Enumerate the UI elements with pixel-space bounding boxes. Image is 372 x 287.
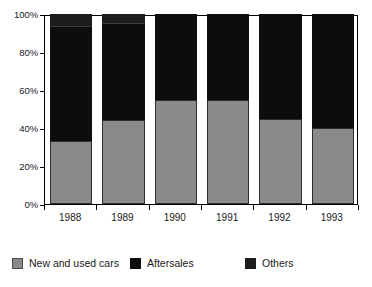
bar-group xyxy=(307,16,359,204)
bar-segment-new-and-used-cars[interactable] xyxy=(312,128,354,204)
bar-segment-others[interactable] xyxy=(102,14,144,24)
bar-segment-aftersales[interactable] xyxy=(207,14,249,100)
y-axis-tick-label: 0% xyxy=(4,200,38,210)
y-axis-tick-mark xyxy=(40,129,44,130)
y-axis-tick-label: 80% xyxy=(4,48,38,58)
bar-group xyxy=(150,16,202,204)
legend-item[interactable]: Aftersales xyxy=(130,255,194,271)
bar-segment-aftersales[interactable] xyxy=(312,14,354,128)
bar-group xyxy=(254,16,306,204)
y-axis-tick-mark xyxy=(40,15,44,16)
bar-stack[interactable] xyxy=(155,16,197,204)
bar-segment-new-and-used-cars[interactable] xyxy=(207,100,249,205)
y-axis-tick-label: 60% xyxy=(4,86,38,96)
bar-segment-new-and-used-cars[interactable] xyxy=(102,120,144,204)
x-axis-tick-mark xyxy=(44,205,45,210)
x-axis-tick-mark xyxy=(96,205,97,210)
bar-segment-new-and-used-cars[interactable] xyxy=(259,119,301,205)
legend-swatch-aftersales xyxy=(130,258,141,269)
x-axis-tick-mark xyxy=(306,205,307,210)
bar-stack[interactable] xyxy=(102,16,144,204)
x-axis-tick-label: 1988 xyxy=(44,212,96,224)
bar-segment-new-and-used-cars[interactable] xyxy=(50,141,92,204)
y-axis-tick-mark xyxy=(40,91,44,92)
bar-group xyxy=(97,16,149,204)
bar-segment-aftersales[interactable] xyxy=(155,14,197,100)
bar-stack[interactable] xyxy=(50,16,92,204)
bar-group xyxy=(45,16,97,204)
bar-stack[interactable] xyxy=(312,16,354,204)
bar-segment-aftersales[interactable] xyxy=(102,24,144,121)
y-axis-tick-label: 40% xyxy=(4,124,38,134)
y-axis-tick-mark xyxy=(40,167,44,168)
bar-segment-aftersales[interactable] xyxy=(50,27,92,141)
y-axis-tick-mark xyxy=(40,53,44,54)
y-axis-tick-label: 20% xyxy=(4,162,38,172)
x-axis-tick-label: 1993 xyxy=(306,212,358,224)
y-axis-tick-label: 100% xyxy=(4,10,38,20)
legend-item[interactable]: New and used cars xyxy=(12,255,119,271)
bar-segment-others[interactable] xyxy=(50,14,92,27)
x-axis-tick-mark xyxy=(253,205,254,210)
x-axis-tick-label: 1992 xyxy=(253,212,305,224)
legend-label: New and used cars xyxy=(29,257,119,269)
x-axis-tick-mark xyxy=(201,205,202,210)
stacked-bar-chart: 0%20%40%60%80%100% 198819891990199119921… xyxy=(0,0,372,287)
bar-stack[interactable] xyxy=(259,16,301,204)
bar-stack[interactable] xyxy=(207,16,249,204)
y-axis-labels: 0%20%40%60%80%100% xyxy=(0,0,38,287)
bars-layer xyxy=(45,16,357,204)
legend-item[interactable]: Others xyxy=(245,255,294,271)
bar-segment-new-and-used-cars[interactable] xyxy=(155,100,197,205)
x-axis-tick-label: 1989 xyxy=(96,212,148,224)
x-axis-tick-mark xyxy=(358,205,359,210)
bar-segment-aftersales[interactable] xyxy=(259,14,301,119)
x-axis-tick-mark xyxy=(149,205,150,210)
chart-legend: New and used carsAftersalesOthers xyxy=(0,255,372,277)
legend-swatch-others xyxy=(245,258,256,269)
x-axis-tick-label: 1991 xyxy=(201,212,253,224)
legend-label: Aftersales xyxy=(147,257,194,269)
legend-swatch-new-and-used-cars xyxy=(12,258,23,269)
plot-area xyxy=(44,15,358,205)
x-axis-tick-label: 1990 xyxy=(149,212,201,224)
bar-group xyxy=(202,16,254,204)
legend-label: Others xyxy=(262,257,294,269)
